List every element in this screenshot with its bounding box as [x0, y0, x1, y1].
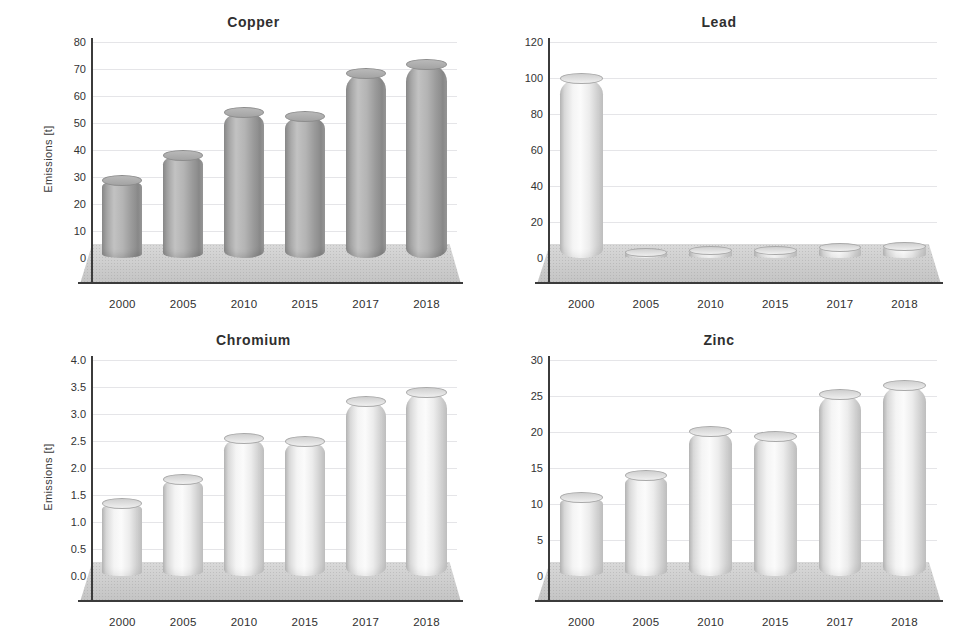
bar-2005	[163, 360, 203, 576]
bar-2010	[224, 42, 264, 258]
y-tick-label: 1.0	[71, 516, 86, 528]
bar-cylinder	[689, 431, 732, 576]
bar-2000	[102, 42, 142, 258]
bars-copper	[92, 42, 457, 258]
bar-cylinder	[560, 497, 603, 576]
bar-cylinder	[819, 247, 862, 258]
x-axis-ticks-lead: 200020052010201520172018	[549, 298, 937, 310]
x-tick-label: 2000	[102, 616, 142, 628]
bar-cylinder	[406, 64, 446, 258]
x-tick-label: 2018	[883, 616, 926, 628]
x-axis-line-copper	[78, 282, 463, 284]
y-axis-ticks-zinc: 051015202530	[495, 360, 543, 576]
y-tick-label: 5	[537, 534, 543, 546]
y-tick-label: 80	[531, 108, 543, 120]
bars-chromium	[92, 360, 457, 576]
x-tick-label: 2017	[819, 298, 862, 310]
bar-cylinder	[560, 78, 603, 258]
y-axis-ticks-lead: 020406080100120	[495, 42, 543, 258]
y-tick-label: 10	[74, 225, 86, 237]
chart-panel-zinc: Zinc 051015202530 2000200520102015201720…	[479, 318, 959, 636]
y-tick-label: 40	[531, 180, 543, 192]
y-tick-label: 60	[531, 144, 543, 156]
y-tick-label: 80	[74, 36, 86, 48]
x-tick-label: 2010	[224, 298, 264, 310]
bar-cylinder-cap	[346, 68, 386, 79]
bar-2018	[883, 42, 926, 258]
bar-cylinder	[224, 112, 264, 258]
bar-cylinder-cap	[102, 175, 142, 186]
bar-cylinder-cap	[285, 111, 325, 122]
y-tick-label: 30	[531, 354, 543, 366]
y-tick-label: 100	[525, 72, 543, 84]
plot-area-lead: 020406080100120 200020052010201520172018	[549, 42, 937, 258]
plot-area-zinc: 051015202530 200020052010201520172018	[549, 360, 937, 576]
y-tick-label: 10	[531, 498, 543, 510]
y-tick-label: 0.0	[71, 570, 86, 582]
bar-2017	[819, 42, 862, 258]
y-tick-label: 50	[74, 117, 86, 129]
bar-cylinder-cap	[406, 387, 446, 398]
x-tick-label: 2010	[689, 298, 732, 310]
bar-cylinder-cap	[224, 433, 264, 444]
bar-cylinder	[819, 394, 862, 576]
chart-title-copper: Copper	[0, 14, 479, 30]
x-tick-label: 2015	[754, 298, 797, 310]
y-tick-label: 3.0	[71, 408, 86, 420]
bar-2015	[285, 360, 325, 576]
bar-cylinder-cap	[346, 396, 386, 407]
y-tick-label: 20	[531, 426, 543, 438]
x-tick-label: 2015	[754, 616, 797, 628]
chart-panel-chromium: Chromium Emissions [t] 0.00.51.01.52.02.…	[0, 318, 479, 636]
x-tick-label: 2005	[625, 616, 668, 628]
x-tick-label: 2015	[285, 298, 325, 310]
x-tick-label: 2000	[102, 298, 142, 310]
x-tick-label: 2000	[560, 616, 603, 628]
x-tick-label: 2010	[689, 616, 732, 628]
x-axis-line-lead	[535, 282, 943, 284]
y-tick-label: 4.0	[71, 354, 86, 366]
bar-cylinder	[163, 155, 203, 258]
bar-cylinder	[406, 392, 446, 576]
y-tick-label: 25	[531, 390, 543, 402]
x-axis-ticks-zinc: 200020052010201520172018	[549, 616, 937, 628]
y-tick-label: 70	[74, 63, 86, 75]
bar-2010	[224, 360, 264, 576]
chart-panel-lead: Lead 020406080100120 2000200520102015201…	[479, 0, 959, 318]
y-tick-label: 15	[531, 462, 543, 474]
y-tick-label: 30	[74, 171, 86, 183]
bar-2017	[819, 360, 862, 576]
bar-cylinder	[346, 73, 386, 258]
bar-cylinder	[102, 503, 142, 576]
bar-2017	[346, 360, 386, 576]
bar-2005	[625, 42, 668, 258]
y-axis-ticks-chromium: 0.00.51.01.52.02.53.03.54.0	[38, 360, 86, 576]
bar-2005	[163, 42, 203, 258]
bar-cylinder-cap	[689, 246, 732, 255]
x-axis-ticks-copper: 200020052010201520172018	[92, 298, 457, 310]
y-tick-label: 40	[74, 144, 86, 156]
bar-cylinder-cap	[406, 59, 446, 70]
y-tick-label: 3.5	[71, 381, 86, 393]
y-tick-label: 0	[537, 252, 543, 264]
y-tick-label: 20	[74, 198, 86, 210]
chart-grid: Copper Emissions [t] 01020304050607080 2…	[0, 0, 959, 636]
bar-cylinder	[754, 436, 797, 576]
bar-cylinder-cap	[560, 73, 603, 84]
bar-cylinder-cap	[754, 431, 797, 442]
bar-cylinder-cap	[883, 242, 926, 251]
bar-cylinder-cap	[163, 150, 203, 161]
y-tick-label: 60	[74, 90, 86, 102]
y-tick-label: 2.0	[71, 462, 86, 474]
x-tick-label: 2005	[625, 298, 668, 310]
bar-2000	[102, 360, 142, 576]
y-tick-label: 0.5	[71, 543, 86, 555]
x-tick-label: 2017	[819, 616, 862, 628]
y-tick-label: 120	[525, 36, 543, 48]
bar-cylinder-cap	[819, 389, 862, 400]
bar-cylinder	[224, 438, 264, 576]
x-axis-ticks-chromium: 200020052010201520172018	[92, 616, 457, 628]
x-tick-label: 2018	[406, 616, 446, 628]
bar-cylinder-cap	[560, 492, 603, 503]
bar-cylinder-cap	[102, 498, 142, 509]
